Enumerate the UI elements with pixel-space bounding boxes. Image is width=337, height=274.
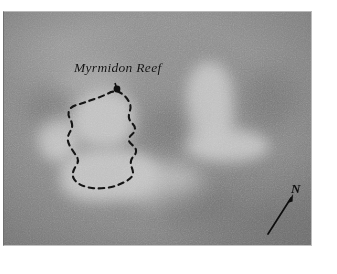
reef-label: Myrmidon Reef <box>74 60 162 76</box>
north-label: N <box>291 181 300 197</box>
reef-outline-dashed <box>68 91 136 188</box>
north-arrow-shaft <box>268 198 291 234</box>
figure-page: Myrmidon Reef N <box>0 0 337 274</box>
annotation-overlay <box>0 0 337 274</box>
